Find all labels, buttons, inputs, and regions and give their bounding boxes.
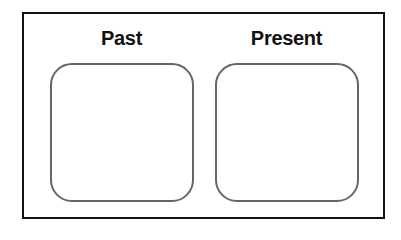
present-box [215, 63, 359, 202]
past-label: Past [50, 27, 193, 50]
past-box [50, 63, 194, 202]
present-label: Present [215, 27, 358, 50]
